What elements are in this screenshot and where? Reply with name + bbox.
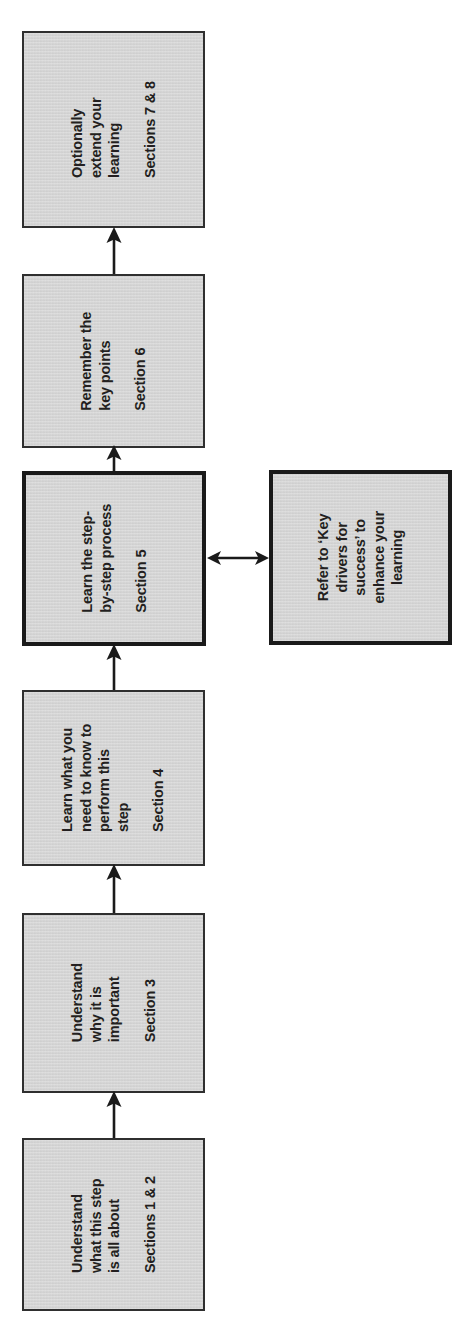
box-section-step-4: Section 5 bbox=[132, 550, 151, 613]
flow-box-side-note[interactable]: Refer to ‘Key drivers for success’ to en… bbox=[269, 470, 452, 645]
box-title-step-5: Remember the key points bbox=[77, 312, 114, 411]
box-section-step-6: Sections 7 & 8 bbox=[141, 81, 160, 178]
flow-box-step-1[interactable]: Understand what this step is all about S… bbox=[22, 1138, 205, 1311]
flow-box-step-5[interactable]: Remember the key points Section 6 bbox=[22, 274, 205, 448]
box-title-step-3: Learn what you need to know to perform t… bbox=[59, 724, 133, 832]
box-title-side-note: Refer to ‘Key drivers for success’ to en… bbox=[314, 511, 407, 603]
arrow-step-4-to-side-note bbox=[206, 543, 270, 573]
box-title-step-6: Optionally extend your learning bbox=[68, 97, 124, 178]
box-title-step-2: Understand why it is important bbox=[68, 963, 124, 1042]
flow-box-step-6[interactable]: Optionally extend your learning Sections… bbox=[22, 31, 205, 228]
rotated-text-wrap-step-5: Remember the key points Section 6 bbox=[24, 276, 203, 446]
arrow-step-2-to-step-3 bbox=[101, 863, 127, 915]
box-title-step-4: Learn the step- by-step process bbox=[78, 504, 115, 613]
rotated-text-wrap-step-3: Learn what you need to know to perform t… bbox=[24, 692, 203, 864]
rotated-text-wrap-step-6: Optionally extend your learning Sections… bbox=[24, 33, 203, 226]
flow-box-step-3[interactable]: Learn what you need to know to perform t… bbox=[22, 690, 205, 866]
rotated-text-wrap-step-4: Learn the step- by-step process Section … bbox=[26, 475, 202, 642]
box-section-step-1: Sections 1 & 2 bbox=[141, 1176, 160, 1273]
rotated-text-wrap-step-1: Understand what this step is all about S… bbox=[24, 1140, 203, 1309]
flow-box-step-4[interactable]: Learn the step- by-step process Section … bbox=[22, 471, 206, 646]
arrow-step-5-to-step-6 bbox=[101, 226, 127, 276]
arrow-step-1-to-step-2 bbox=[101, 1090, 127, 1140]
box-section-step-3: Section 4 bbox=[150, 769, 169, 832]
box-section-step-5: Section 6 bbox=[131, 347, 150, 410]
flowchart-canvas: Optionally extend your learning Sections… bbox=[0, 0, 459, 1325]
box-title-step-1: Understand what this step is all about bbox=[68, 1178, 124, 1273]
rotated-text-wrap-side-note: Refer to ‘Key drivers for success’ to en… bbox=[273, 474, 448, 641]
arrow-step-3-to-step-4 bbox=[101, 643, 127, 693]
rotated-text-wrap-step-2: Understand why it is important Section 3 bbox=[24, 915, 203, 1091]
box-section-step-2: Section 3 bbox=[141, 979, 160, 1042]
flow-box-step-2[interactable]: Understand why it is important Section 3 bbox=[22, 913, 205, 1093]
